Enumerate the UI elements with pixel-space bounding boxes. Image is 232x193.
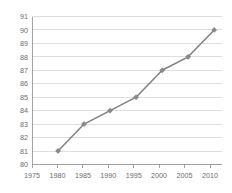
y-tick-label-86: 86 <box>20 79 28 88</box>
y-tick-label-90: 90 <box>20 26 28 35</box>
y-tick-label-84: 84 <box>20 106 28 115</box>
y-tick-label-87: 87 <box>20 66 28 75</box>
x-tick-label-2000: 2000 <box>151 171 167 180</box>
series-group <box>56 28 216 153</box>
x-tick-label-1985: 1985 <box>75 171 91 180</box>
series-line <box>58 30 214 151</box>
chart-canvas: 91 90 89 88 87 86 85 84 83 82 81 80 1975… <box>0 0 232 193</box>
y-tick-label-91: 91 <box>20 12 28 21</box>
y-tick-label-89: 89 <box>20 39 28 48</box>
y-tick-label-88: 88 <box>20 53 28 62</box>
y-tick-label-85: 85 <box>20 93 28 102</box>
x-tick-label-2010: 2010 <box>202 171 218 180</box>
y-tick-label-82: 82 <box>20 133 28 142</box>
gridlines <box>32 17 222 165</box>
y-tick-label-80: 80 <box>20 160 28 169</box>
series-markers <box>56 28 216 153</box>
x-tick-label-1975: 1975 <box>24 171 40 180</box>
x-tick-label-1995: 1995 <box>126 171 142 180</box>
y-axis: 91 90 89 88 87 86 85 84 83 82 81 80 <box>20 12 32 169</box>
x-axis: 1975 1980 1985 1990 1995 2000 2005 2010 <box>24 164 222 180</box>
line-chart: 91 90 89 88 87 86 85 84 83 82 81 80 1975… <box>0 0 232 193</box>
x-tick-label-1990: 1990 <box>100 171 116 180</box>
y-tick-label-81: 81 <box>20 147 28 156</box>
x-tick-label-2005: 2005 <box>177 171 193 180</box>
x-tick-label-1980: 1980 <box>49 171 65 180</box>
y-tick-label-83: 83 <box>20 120 28 129</box>
